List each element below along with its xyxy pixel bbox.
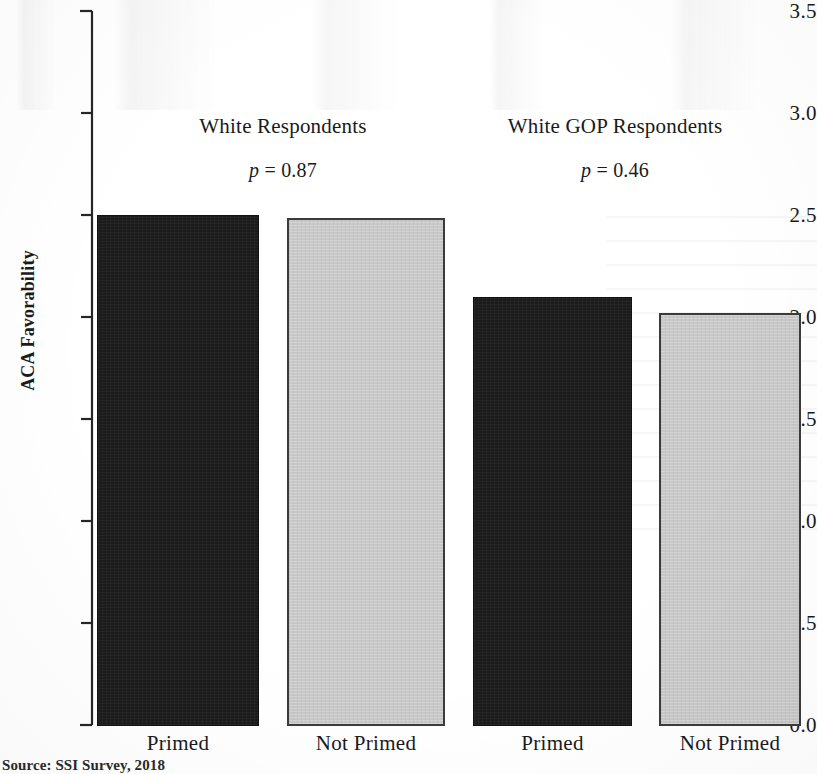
bar-white-gop-respondents-primed bbox=[473, 297, 632, 726]
panel-title-white-gop-respondents: White GOP Respondents bbox=[470, 116, 760, 137]
panel-title-white-respondents: White Respondents bbox=[158, 116, 408, 137]
p-value-text-0: = 0.87 bbox=[259, 159, 317, 181]
panel-pvalue-white-respondents: p = 0.87 bbox=[178, 160, 388, 180]
bar-chart-figure: 3.5 3.0 2.5 2.0 1.5 1.0 0.5 0.0 ACA Favo… bbox=[0, 0, 817, 774]
y-axis-label: ACA Favorability bbox=[18, 231, 39, 411]
ytick-label-3-5: 3.5 bbox=[761, 1, 817, 22]
bar-white-gop-respondents-not-primed bbox=[659, 313, 801, 726]
source-note: Source: SSI Survey, 2018 bbox=[2, 757, 165, 774]
ytick-label-2-5: 2.5 bbox=[761, 205, 817, 226]
bar-white-respondents-primed bbox=[97, 215, 259, 726]
xtick-label-not-primed-1: Not Primed bbox=[287, 733, 445, 754]
p-symbol-0: p bbox=[249, 159, 259, 181]
bar-white-respondents-not-primed bbox=[287, 218, 445, 726]
xtick-label-primed-1: Primed bbox=[97, 733, 259, 754]
xtick-label-primed-2: Primed bbox=[473, 733, 632, 754]
p-symbol-1: p bbox=[581, 159, 591, 181]
p-value-text-1: = 0.46 bbox=[591, 159, 649, 181]
xtick-label-not-primed-2: Not Primed bbox=[659, 733, 801, 754]
panel-pvalue-white-gop-respondents: p = 0.46 bbox=[510, 160, 720, 180]
ytick-label-3-0: 3.0 bbox=[761, 103, 817, 124]
